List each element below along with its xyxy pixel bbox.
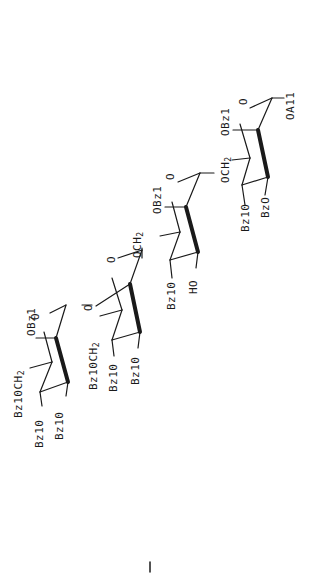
label-ring3-ring-o: O (106, 256, 117, 263)
chemical-structure-diagram: OA11 OBz1 O OCH2 Bz10 BzO O OBz1 OCH2 Bz… (0, 0, 326, 573)
label-ring2-c3-bzo: Bz10 (166, 282, 177, 311)
label-ring2-ring-o: O (165, 173, 176, 180)
label-ring1-c4-bzo: BzO (260, 197, 271, 218)
label-ring3-c6-bzoch2: Bz10CH2 (88, 342, 101, 390)
label-ring3-c4-bzo: Bz10 (130, 357, 141, 386)
label-ring4-c3-bzo: Bz10 (34, 420, 45, 449)
label-ring1-c2-obz: OBz1 (220, 108, 231, 137)
label-ring2-c6-och2: OCH2 (132, 231, 145, 258)
label-anomeric-oallyl: OA11 (285, 92, 296, 121)
label-ring4-c4-bzo: Bz10 (54, 412, 65, 441)
label-ring1-c6-och2: OCH2 (220, 156, 233, 183)
label-ring1-c3-bzo: Bz10 (240, 204, 251, 233)
label-ring4-c6-bzoch2: Bz10CH2 (13, 370, 26, 418)
bond-lines (0, 0, 326, 573)
label-ring3-glycosidic-o: O (83, 304, 94, 311)
label-ring3-c3-bzo: Bz10 (108, 364, 119, 393)
label-ring2-c4-ho: HO (188, 280, 199, 294)
label-ring4-c2-obz: OBz1 (26, 308, 37, 337)
label-ring1-ring-o: O (238, 98, 249, 105)
label-ring2-c2-obz: OBz1 (152, 186, 163, 215)
